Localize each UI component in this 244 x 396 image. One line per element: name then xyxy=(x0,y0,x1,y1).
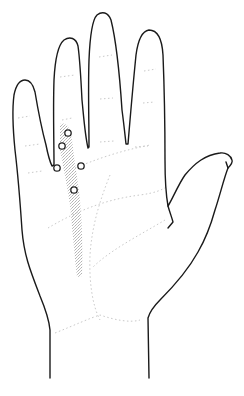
palm-creases xyxy=(18,55,168,333)
hand-outline xyxy=(13,13,232,378)
point-marker-1 xyxy=(65,130,71,136)
point-marker-4 xyxy=(78,163,84,169)
hand-illustration xyxy=(0,0,244,396)
point-marker-2 xyxy=(59,143,65,149)
point-marker-5 xyxy=(71,187,77,193)
point-marker-3 xyxy=(54,165,60,171)
